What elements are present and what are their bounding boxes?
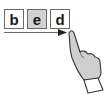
pointing-hand-icon — [69, 31, 103, 93]
gesture-illustration — [0, 0, 110, 95]
swipe-arrow-icon — [4, 29, 67, 36]
